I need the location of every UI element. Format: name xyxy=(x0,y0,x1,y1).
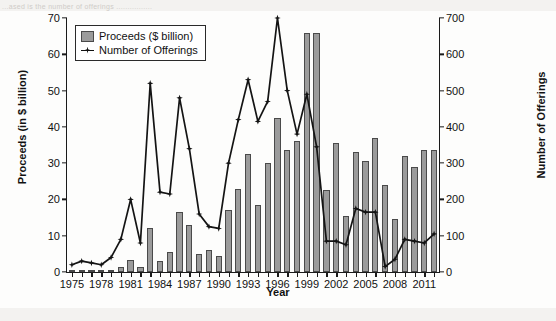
legend-bar-swatch-icon xyxy=(81,31,94,42)
y-tick-left-20: 20 xyxy=(48,193,67,205)
x-tick-1975 xyxy=(72,272,73,277)
bar-1989 xyxy=(206,250,212,272)
y-tick-left-60: 60 xyxy=(48,48,67,60)
x-tick-label-1981: 1981 xyxy=(118,278,142,290)
bar-1987 xyxy=(186,225,192,272)
x-tick-label-1996: 1996 xyxy=(265,278,289,290)
bar-1984 xyxy=(157,261,163,272)
legend-label-offerings: Number of Offerings xyxy=(99,43,198,57)
bar-2006 xyxy=(372,138,378,272)
offerings-marker-1978 xyxy=(98,262,104,268)
y-tick-right-0: 0 xyxy=(439,266,452,278)
y-tick-right-400: 400 xyxy=(439,121,464,133)
x-tick-1980 xyxy=(121,272,122,277)
offerings-marker-1979 xyxy=(108,254,114,260)
y-tick-right-300: 300 xyxy=(439,157,464,169)
x-tick-1991 xyxy=(229,272,230,277)
x-tick-2004 xyxy=(356,272,357,277)
offerings-marker-1997 xyxy=(284,87,290,93)
x-tick-1976 xyxy=(82,272,83,277)
bar-1988 xyxy=(196,254,202,272)
x-tick-label-1975: 1975 xyxy=(60,278,84,290)
offerings-marker-1980 xyxy=(118,236,124,242)
x-tick-label-1993: 1993 xyxy=(236,278,260,290)
bar-2008 xyxy=(392,219,398,272)
y-tick-right-600: 600 xyxy=(439,48,464,60)
bar-2001 xyxy=(323,190,329,272)
x-tick-label-2011: 2011 xyxy=(412,278,436,290)
offerings-marker-1976 xyxy=(78,258,84,264)
x-tick-label-1987: 1987 xyxy=(177,278,201,290)
legend-line-marker-icon xyxy=(81,46,94,55)
x-tick-1979 xyxy=(111,272,112,277)
x-tick-1992 xyxy=(238,272,239,277)
offerings-marker-1998 xyxy=(294,131,300,137)
bar-1995 xyxy=(265,163,271,272)
chart-figure: Proceeds (in $ billion) Number of Offeri… xyxy=(0,11,556,308)
bar-2010 xyxy=(411,167,417,272)
offerings-marker-1977 xyxy=(88,260,94,266)
x-tick-1986 xyxy=(180,272,181,277)
bar-1990 xyxy=(216,256,222,272)
bar-2009 xyxy=(402,156,408,272)
bar-2002 xyxy=(333,143,339,272)
offerings-marker-1981 xyxy=(127,196,133,202)
x-tick-2010 xyxy=(415,272,416,277)
offerings-marker-1988 xyxy=(196,211,202,217)
bar-1997 xyxy=(284,150,290,272)
y-tick-right-700: 700 xyxy=(439,12,464,24)
offerings-marker-1996 xyxy=(274,15,280,21)
legend-item-proceeds: Proceeds ($ billion) xyxy=(81,29,198,43)
x-tick-1982 xyxy=(140,272,141,277)
offerings-marker-1986 xyxy=(176,95,182,101)
x-tick-1985 xyxy=(170,272,171,277)
x-tick-label-1999: 1999 xyxy=(295,278,319,290)
offerings-marker-1987 xyxy=(186,145,192,151)
legend-label-proceeds: Proceeds ($ billion) xyxy=(99,29,193,43)
bar-1998 xyxy=(294,141,300,272)
bar-1983 xyxy=(147,228,153,272)
bar-2005 xyxy=(362,161,368,272)
x-tick-2007 xyxy=(385,272,386,277)
offerings-marker-1993 xyxy=(245,76,251,82)
offerings-marker-1985 xyxy=(167,191,173,197)
offerings-marker-1975 xyxy=(69,262,75,268)
offerings-marker-1995 xyxy=(264,98,270,104)
x-tick-2008 xyxy=(395,272,396,277)
x-tick-1988 xyxy=(199,272,200,277)
y-tick-left-30: 30 xyxy=(48,157,67,169)
bar-2012 xyxy=(431,150,437,272)
x-tick-2001 xyxy=(326,272,327,277)
x-tick-2005 xyxy=(366,272,367,277)
x-tick-1990 xyxy=(219,272,220,277)
bar-1999 xyxy=(304,33,310,272)
x-tick-2003 xyxy=(346,272,347,277)
bar-2007 xyxy=(382,185,388,272)
x-tick-label-1978: 1978 xyxy=(89,278,113,290)
y-tick-left-40: 40 xyxy=(48,121,67,133)
bar-1991 xyxy=(225,210,231,272)
bar-2003 xyxy=(343,216,349,272)
y-tick-right-500: 500 xyxy=(439,85,464,97)
y-tick-left-70: 70 xyxy=(48,12,67,24)
x-tick-1994 xyxy=(258,272,259,277)
offerings-marker-1984 xyxy=(157,189,163,195)
chart-legend: Proceeds ($ billion) Number of Offerings xyxy=(75,25,206,61)
offerings-marker-1991 xyxy=(225,160,231,166)
x-tick-1997 xyxy=(287,272,288,277)
y-tick-left-0: 0 xyxy=(54,266,67,278)
offerings-marker-1982 xyxy=(137,240,143,246)
x-tick-label-1984: 1984 xyxy=(148,278,172,290)
x-tick-label-1990: 1990 xyxy=(206,278,230,290)
offerings-marker-1983 xyxy=(147,80,153,86)
x-tick-1996 xyxy=(277,272,278,277)
offerings-marker-1989 xyxy=(206,223,212,229)
bar-2004 xyxy=(353,152,359,272)
y-tick-right-100: 100 xyxy=(439,230,464,242)
y-axis-right-title: Number of Offerings xyxy=(535,40,547,210)
bar-1992 xyxy=(235,189,241,272)
x-tick-2012 xyxy=(434,272,435,277)
x-tick-1987 xyxy=(189,272,190,277)
bar-2000 xyxy=(313,33,319,272)
x-tick-label-2008: 2008 xyxy=(383,278,407,290)
